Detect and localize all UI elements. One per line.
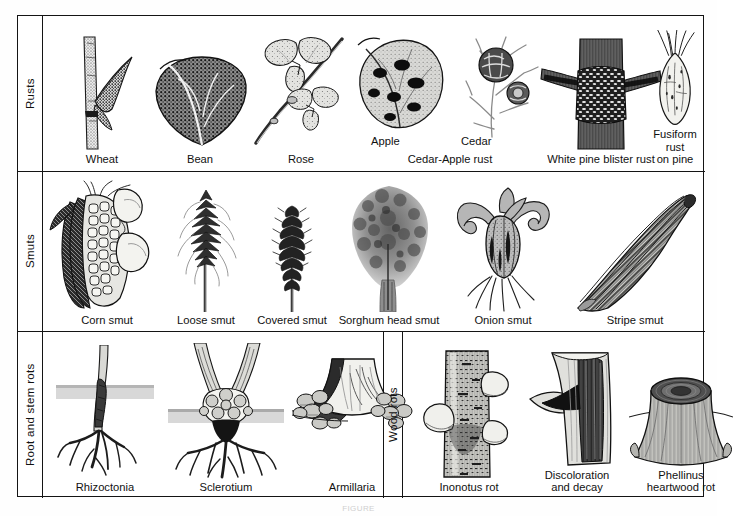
specimen-caption: Sorghum head smut — [339, 314, 440, 327]
specimen-corn-smut: Corn smut — [48, 179, 166, 327]
corn-smut-illustration — [48, 180, 166, 312]
inonotus-rot-illustration — [414, 349, 524, 479]
specimen-bean: Bean — [148, 46, 252, 166]
specimen-loose-smut: Loose smut — [164, 186, 248, 327]
specimen-white-pine-blister-rust: White pine blister rust — [540, 34, 662, 166]
specimen-inonotus-rot: Inonotus rot — [414, 342, 524, 494]
specimen-caption: Cedar-Apple rust — [408, 153, 493, 166]
specimen-caption: Phellinus heartwood rot — [647, 469, 715, 494]
specimen-sclerotium: Sclerotium — [164, 340, 288, 494]
specimen-caption: Rose — [288, 153, 314, 166]
covered-smut-illustration — [250, 204, 334, 312]
specimen-caption: Armillaria — [329, 481, 376, 494]
specimen-caption: Rhizoctonia — [76, 481, 134, 494]
specimen-caption: Stripe smut — [607, 314, 664, 327]
figure-frame: Rusts — [17, 15, 704, 497]
sclerotium-illustration — [164, 343, 288, 479]
specimen-fusiform-rust-on-pine: Fusiform rust on pine — [646, 30, 704, 166]
onion-smut-illustration — [448, 186, 558, 312]
specimen-caption: Covered smut — [257, 314, 327, 327]
specimen-rose: Rose — [246, 32, 356, 166]
loose-smut-illustration — [164, 188, 248, 312]
cedar-apple-rust-illustration — [354, 33, 546, 151]
sublabel-cedar: Cedar — [461, 135, 491, 147]
specimen-caption: White pine blister rust — [547, 153, 655, 166]
specimen-caption: Loose smut — [177, 314, 235, 327]
label-column-divider-rusts — [42, 16, 43, 171]
category-label-wood-rots: Wood rots — [383, 331, 402, 498]
specimen-onion-smut: Onion smut — [448, 184, 558, 327]
discoloration-and-decay-illustration — [524, 351, 630, 467]
row-divider-2 — [18, 331, 705, 332]
specimen-caption: Wheat — [86, 153, 118, 166]
wheat-rust-illustration — [54, 35, 150, 151]
bean-rust-illustration — [148, 51, 252, 151]
stripe-smut-illustration — [570, 190, 700, 312]
fusiform-rust-illustration — [646, 30, 704, 126]
specimen-caption: Inonotus rot — [439, 481, 498, 494]
specimen-stripe-smut: Stripe smut — [570, 188, 700, 327]
row-divider-1 — [18, 171, 705, 172]
specimen-caption: Corn smut — [81, 314, 133, 327]
white-pine-blister-rust-illustration — [540, 37, 662, 151]
figure-bottom-caption: FIGURE — [0, 504, 717, 513]
label-column-divider-smuts — [42, 171, 43, 331]
specimen-caption: Fusiform rust on pine — [646, 128, 704, 166]
label-column-divider-root-rots — [42, 331, 43, 498]
category-label-root-and-stem-rots: Root and stem rots — [18, 331, 42, 498]
specimen-discoloration-and-decay: Discoloration and decay — [524, 346, 630, 494]
specimen-caption: Sclerotium — [200, 481, 253, 494]
specimen-sorghum-head-smut: Sorghum head smut — [334, 183, 444, 327]
sublabel-apple: Apple — [371, 135, 400, 147]
specimen-covered-smut: Covered smut — [250, 202, 334, 327]
specimen-caption: Bean — [187, 153, 213, 166]
rhizoctonia-illustration — [50, 345, 160, 479]
specimen-caption: Discoloration and decay — [545, 469, 610, 494]
specimen-rhizoctonia: Rhizoctonia — [50, 342, 160, 494]
specimen-wheat: Wheat — [54, 30, 150, 166]
category-label-rusts: Rusts — [18, 16, 42, 171]
rose-rust-illustration — [246, 35, 356, 151]
sorghum-head-smut-illustration — [334, 184, 444, 312]
phellinus-heartwood-rot-illustration — [629, 371, 733, 467]
specimen-caption: Onion smut — [474, 314, 531, 327]
category-label-smuts: Smuts — [18, 171, 42, 331]
specimen-phellinus-heartwood-rot: Phellinus heartwood rot — [626, 366, 736, 494]
